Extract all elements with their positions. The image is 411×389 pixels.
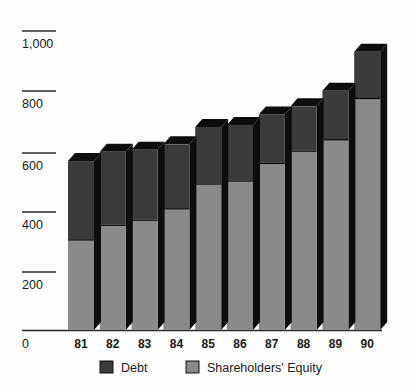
y-axis-label-800: 800 — [22, 97, 43, 111]
bar-side-face-88 — [317, 98, 324, 330]
bar-segment-equity-81 — [68, 239, 94, 330]
bar-segment-debt-83 — [132, 150, 158, 220]
bar-segment-equity-83 — [132, 220, 158, 330]
bar-side-face-83 — [158, 142, 165, 330]
chart-legend: Debt Shareholders' Equity — [100, 361, 323, 375]
stacked-bar-chart: 1,000 800 600 400 200 0 9089888786858483… — [0, 0, 411, 389]
legend-swatch-debt — [100, 361, 113, 373]
y-axis-label-0: 0 — [22, 337, 29, 351]
bar-side-face-85 — [221, 119, 228, 330]
y-axis-label-600: 600 — [22, 159, 43, 173]
bar-side-face-81 — [94, 153, 101, 330]
bar-group-89 — [322, 83, 355, 330]
bar-segment-equity-88 — [291, 151, 317, 330]
bar-group-81 — [68, 153, 101, 330]
bar-segment-debt-81 — [68, 161, 94, 239]
bar-group-82 — [100, 144, 133, 330]
bar-segment-equity-87 — [259, 163, 285, 330]
bar-segment-equity-86 — [227, 181, 253, 331]
bar-side-face-89 — [348, 83, 355, 330]
bar-segment-debt-82 — [100, 152, 126, 225]
x-axis-label-84: 84 — [170, 337, 184, 351]
bar-segment-debt-85 — [195, 127, 221, 184]
x-axis-label-86: 86 — [233, 337, 247, 351]
bar-segment-debt-88 — [291, 106, 317, 150]
bar-segment-equity-84 — [163, 208, 189, 330]
legend-label-debt: Debt — [121, 361, 148, 375]
bar-segment-debt-89 — [322, 91, 348, 139]
bar-side-face-82 — [126, 144, 133, 330]
bar-group-90 — [354, 44, 387, 330]
legend-label-shareholders-equity: Shareholders' Equity — [207, 361, 323, 375]
bar-segment-equity-85 — [195, 183, 221, 330]
bar-segment-debt-87 — [259, 114, 285, 162]
x-axis-label-82: 82 — [106, 337, 120, 351]
chart-container: 1,000 800 600 400 200 0 9089888786858483… — [0, 0, 411, 389]
y-axis-label-1000: 1,000 — [22, 37, 53, 51]
bar-group-88 — [291, 98, 324, 330]
bar-side-face-87 — [285, 106, 292, 330]
y-axis-label-400: 400 — [22, 218, 43, 232]
bar-group-83 — [132, 142, 165, 330]
bar-segment-equity-82 — [100, 225, 126, 330]
bar-group-86 — [227, 117, 260, 330]
bar-segment-debt-84 — [163, 144, 189, 208]
bar-side-face-84 — [189, 136, 196, 330]
x-axis-label-90: 90 — [361, 337, 375, 351]
bar-side-face-90 — [380, 44, 387, 330]
x-axis-label-88: 88 — [297, 337, 311, 351]
x-axis-label-87: 87 — [265, 337, 279, 351]
y-axis-label-200: 200 — [22, 278, 43, 292]
bar-group-85 — [195, 119, 228, 330]
bar-segment-debt-86 — [227, 125, 253, 181]
x-axis-label-83: 83 — [138, 337, 152, 351]
bar-segment-debt-90 — [354, 52, 380, 98]
bar-side-face-86 — [253, 117, 260, 330]
legend-swatch-shareholders-equity — [186, 361, 199, 373]
bar-group-87 — [259, 106, 292, 330]
x-axis-label-81: 81 — [74, 337, 88, 351]
bar-group-84 — [163, 136, 196, 330]
bar-segment-equity-90 — [354, 98, 380, 330]
bar-segment-equity-89 — [322, 139, 348, 330]
x-axis-label-85: 85 — [202, 337, 216, 351]
x-axis-label-89: 89 — [329, 337, 343, 351]
